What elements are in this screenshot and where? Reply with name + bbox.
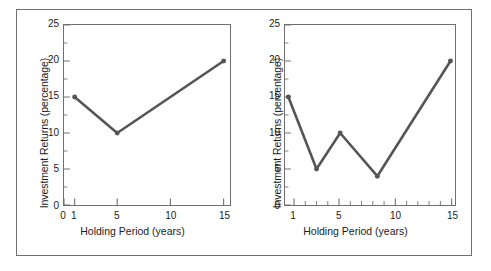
y-tick-label: 0: [35, 200, 59, 211]
x-tick-label: 1: [281, 210, 305, 221]
data-series-line: [75, 61, 224, 133]
y-tick-label: 15: [35, 90, 59, 101]
data-point-marker: [314, 167, 319, 172]
y-tick-label: 5: [35, 163, 59, 174]
x-tick-label: 15: [441, 210, 465, 221]
y-tick-label: 0: [256, 200, 280, 211]
data-point-marker: [115, 131, 120, 136]
y-tick-label: 10: [35, 127, 59, 138]
y-tick-label: 25: [256, 18, 280, 29]
y-tick-label: 20: [35, 54, 59, 65]
y-tick-label: 10: [256, 127, 280, 138]
data-point-marker: [375, 174, 380, 179]
x-tick-label: 5: [105, 210, 129, 221]
data-point-marker: [338, 131, 343, 136]
data-point-marker: [72, 95, 77, 100]
line-chart-left: [64, 25, 230, 205]
data-point-marker: [448, 59, 453, 64]
chart-panels: Investment Returns (percentage) 05101520…: [17, 10, 471, 255]
data-point-marker: [221, 59, 226, 64]
data-point-marker: [286, 95, 291, 100]
figure-frame: Investment Returns (percentage) 05101520…: [16, 9, 472, 256]
chart-panel-right: Investment Returns (percentage) 05101520…: [244, 10, 471, 255]
x-tick-label: 5: [327, 210, 351, 221]
plot-area-left: [63, 24, 231, 206]
y-tick-label: 5: [256, 163, 280, 174]
x-tick-label: 1: [62, 210, 86, 221]
y-tick-label: 25: [35, 18, 59, 29]
data-series-line: [288, 61, 450, 176]
x-tick-label: 10: [159, 210, 183, 221]
line-chart-right: [285, 25, 455, 205]
x-tick-label: 10: [384, 210, 408, 221]
y-tick-label: 20: [256, 54, 280, 65]
plot-area-right: [284, 24, 456, 206]
y-tick-label: 15: [256, 90, 280, 101]
x-tick-label: 15: [213, 210, 237, 221]
x-axis-title-right: Holding Period (years): [242, 225, 469, 237]
x-axis-title-left: Holding Period (years): [19, 225, 246, 237]
chart-panel-left: Investment Returns (percentage) 05101520…: [17, 10, 244, 255]
